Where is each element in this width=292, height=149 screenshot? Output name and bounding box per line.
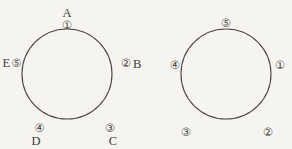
left-circle-point-bottom-right: ③ C [103,119,117,147]
right-point-right-number: ① [275,58,285,72]
right-circle-point-right: ① [275,56,285,72]
right-point-top-number: ⑤ [221,16,231,30]
right-point-bottom-left-number: ③ [181,125,191,139]
left-point-top-number: ① [62,20,72,32]
right-circle-point-bottom-left: ③ [181,123,191,139]
left-circle-point-top: A ① [62,4,72,31]
left-point-left-letter: E [3,57,11,70]
right-point-bottom-right-number: ② [263,125,273,139]
right-circle-point-top: ⑤ [221,14,231,30]
left-circle-outline [22,29,112,119]
left-point-bottom-right-letter: C [109,134,117,147]
right-circle-outline [181,29,271,119]
figure-root: A ① ② B ③ C ④ D E ⑤ ⑤ ① ② [0,0,292,149]
left-point-bottom-left-number: ④ [34,123,44,135]
left-circle-point-left: E ⑤ [3,54,22,70]
left-circle-point-right: ② B [121,54,142,70]
left-circle-point-bottom-left: ④ D [27,119,44,147]
left-point-right-number: ② [121,58,131,70]
left-point-bottom-right-number: ③ [105,123,115,135]
right-circle-point-left: ④ [170,56,180,72]
right-point-left-number: ④ [170,58,180,72]
left-point-right-letter: B [133,58,141,71]
left-point-left-number: ⑤ [11,58,21,70]
right-circle-point-bottom-right: ② [263,123,273,139]
left-point-bottom-left-letter: D [31,134,40,147]
